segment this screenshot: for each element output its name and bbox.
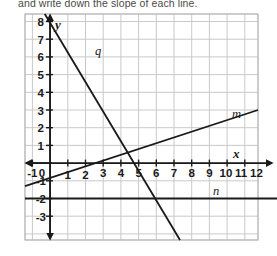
graph-svg: 8 7 6 5 4 3 2 1 -1 -2 -3 -1 0 1 2 3 4 5 …: [0, 0, 277, 256]
y-tick-label: 4: [38, 87, 45, 99]
y-tick-label: 5: [38, 69, 45, 81]
y-tick-label: 1: [38, 140, 45, 152]
x-tick-label: 1: [65, 169, 72, 181]
line-label-m: m: [232, 107, 241, 121]
x-tick-label: 4: [118, 167, 125, 179]
y-tick-label: 6: [38, 51, 44, 63]
x-tick-label: 9: [206, 167, 212, 179]
x-tick-label: 6: [153, 167, 159, 179]
x-tick-label: 10: [220, 167, 233, 179]
y-tick-label: 3: [38, 105, 44, 117]
coordinate-graph: 8 7 6 5 4 3 2 1 -1 -2 -3 -1 0 1 2 3 4 5 …: [0, 0, 277, 256]
x-tick-label: 8: [188, 167, 195, 179]
x-axis-label: x: [232, 146, 240, 161]
x-tick-label: 3: [100, 167, 106, 179]
line-label-q: q: [95, 44, 101, 58]
y-tick-label: -3: [36, 211, 46, 223]
x-tick-label: 5: [135, 167, 142, 179]
y-tick-label: 2: [38, 122, 44, 134]
x-tick-label: -1: [27, 167, 38, 179]
y-axis-label: y: [53, 17, 61, 32]
x-tick-label: 7: [171, 167, 177, 179]
x-tick-label: 11: [235, 167, 248, 179]
x-tick-label: 12: [250, 167, 263, 179]
plot-background: [25, 14, 258, 240]
line-label-n: n: [213, 184, 219, 198]
x-tick-label: 2: [82, 169, 88, 181]
y-tick-label: 8: [38, 16, 45, 28]
x-tick-label: 0: [39, 167, 45, 179]
y-tick-label: -2: [36, 193, 46, 205]
y-tick-label: 7: [38, 34, 44, 46]
